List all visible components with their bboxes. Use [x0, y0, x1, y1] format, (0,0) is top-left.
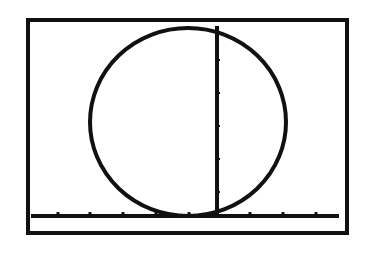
y-axis-vertical-line	[217, 26, 220, 216]
calculator-graph-screen	[0, 0, 366, 256]
graphed-circle	[90, 28, 286, 216]
screen-frame	[28, 20, 347, 233]
